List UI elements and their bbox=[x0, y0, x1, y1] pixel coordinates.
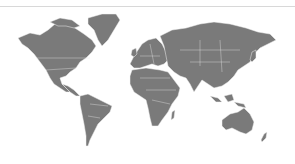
southeast-asia-islands bbox=[210, 94, 246, 108]
south-america bbox=[80, 94, 112, 146]
australia bbox=[222, 108, 254, 134]
north-america bbox=[18, 22, 96, 92]
asia bbox=[160, 22, 276, 92]
world-map bbox=[0, 0, 295, 164]
new-zealand bbox=[261, 132, 267, 142]
madagascar bbox=[171, 110, 175, 120]
